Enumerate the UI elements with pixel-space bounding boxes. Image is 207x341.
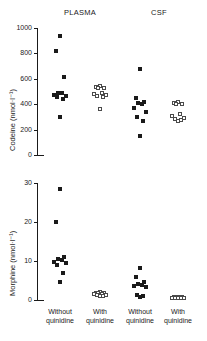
data-point bbox=[176, 119, 180, 123]
data-point bbox=[144, 110, 148, 114]
data-point bbox=[58, 34, 62, 38]
y-axis-title: Codeine (nmol·l⁻¹) bbox=[9, 89, 17, 151]
data-point bbox=[61, 97, 65, 101]
codeine-panel: 02004006008001000Codeine (nmol·l⁻¹)PLASM… bbox=[0, 0, 207, 175]
group-label-line2: quinidine bbox=[153, 317, 203, 326]
group-label-line1: With bbox=[153, 308, 203, 317]
scatter-figure: 02004006008001000Codeine (nmol·l⁻¹)PLASM… bbox=[0, 0, 207, 341]
data-point bbox=[135, 115, 139, 119]
data-point bbox=[138, 67, 142, 71]
y-axis-tick-label: 20 bbox=[1, 218, 32, 225]
y-axis-tick-label: 800 bbox=[1, 49, 32, 56]
data-point bbox=[180, 102, 184, 106]
data-point bbox=[176, 296, 180, 300]
data-point bbox=[98, 294, 102, 298]
y-axis-tick bbox=[34, 155, 37, 156]
data-point bbox=[138, 266, 142, 270]
data-point bbox=[102, 86, 106, 90]
morphine-panel: 0102030Morphine (nmol·l⁻¹)Withoutquinidi… bbox=[0, 170, 207, 341]
y-axis-tick bbox=[34, 183, 37, 184]
data-point bbox=[54, 220, 58, 224]
panel-header-csf: CSF bbox=[119, 9, 199, 17]
y-axis-line bbox=[37, 28, 38, 155]
codeine-plot-area: 02004006008001000Codeine (nmol·l⁻¹)PLASM… bbox=[0, 0, 207, 175]
data-point bbox=[58, 280, 62, 284]
x-axis-group-label-3: Withquinidine bbox=[153, 308, 203, 325]
data-point bbox=[132, 106, 136, 110]
data-point bbox=[138, 134, 142, 138]
x-axis-stub bbox=[37, 155, 44, 156]
data-point bbox=[144, 285, 148, 289]
y-axis-tick bbox=[34, 222, 37, 223]
data-point bbox=[64, 261, 68, 265]
y-axis-tick-label: 600 bbox=[1, 75, 32, 82]
data-point bbox=[134, 96, 138, 100]
data-point bbox=[55, 263, 59, 267]
data-point bbox=[95, 94, 99, 98]
x-axis-stub bbox=[37, 300, 44, 301]
y-axis-line bbox=[37, 183, 38, 300]
y-axis-tick-label: 30 bbox=[1, 179, 32, 186]
data-point bbox=[55, 95, 59, 99]
y-axis-title: Morphine (nmol·l⁻¹) bbox=[9, 231, 17, 296]
data-point bbox=[174, 102, 178, 106]
y-axis-tick bbox=[34, 300, 37, 301]
y-axis-tick bbox=[34, 79, 37, 80]
data-point bbox=[62, 75, 66, 79]
panel-header-plasma: PLASMA bbox=[40, 9, 120, 17]
data-point bbox=[141, 119, 145, 123]
data-point bbox=[58, 115, 62, 119]
data-point bbox=[132, 284, 136, 288]
data-point bbox=[98, 107, 102, 111]
y-axis-tick bbox=[34, 53, 37, 54]
y-axis-tick bbox=[34, 130, 37, 131]
data-point bbox=[101, 95, 105, 99]
data-point bbox=[54, 49, 58, 53]
y-axis-tick bbox=[34, 104, 37, 105]
y-axis-tick-label: 0 bbox=[1, 151, 32, 158]
y-axis-tick-label: 0 bbox=[1, 296, 32, 303]
data-point bbox=[140, 102, 144, 106]
data-point bbox=[138, 295, 142, 299]
y-axis-tick-label: 1000 bbox=[1, 24, 32, 31]
data-point bbox=[96, 86, 100, 90]
data-point bbox=[58, 187, 62, 191]
morphine-plot-area: 0102030Morphine (nmol·l⁻¹)Withoutquinidi… bbox=[0, 170, 207, 341]
y-axis-tick bbox=[34, 261, 37, 262]
data-point bbox=[134, 275, 138, 279]
data-point bbox=[61, 271, 65, 275]
y-axis-tick bbox=[34, 28, 37, 29]
